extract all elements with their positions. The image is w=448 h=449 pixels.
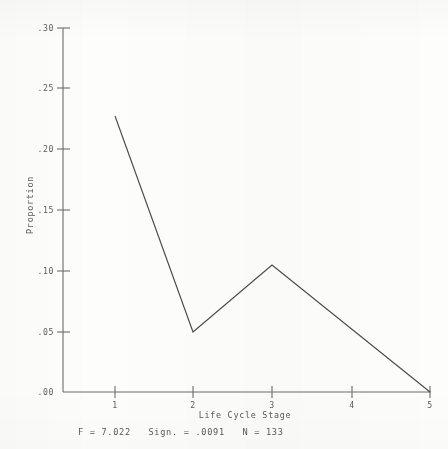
line-chart: .30 .25 .20 .15 .10 .05 .00 1 2 3 4 5 Li… bbox=[0, 0, 448, 449]
y-tick-label: .15 bbox=[37, 205, 54, 215]
statistics-caption: F = 7.022 Sign. = .0091 N = 133 bbox=[78, 427, 284, 437]
x-axis-title: Life Cycle Stage bbox=[199, 410, 292, 420]
y-tick-label: .30 bbox=[37, 23, 54, 33]
y-tick-label: .10 bbox=[37, 266, 54, 276]
x-tick-label: 3 bbox=[269, 400, 275, 410]
x-tick-label: 2 bbox=[190, 400, 196, 410]
x-tick-label: 1 bbox=[112, 400, 118, 410]
y-axis-title: Proportion bbox=[25, 176, 35, 234]
y-tick-label: .00 bbox=[37, 387, 54, 397]
chart-page: .30 .25 .20 .15 .10 .05 .00 1 2 3 4 5 Li… bbox=[0, 0, 448, 449]
y-tick-label: .20 bbox=[37, 144, 54, 154]
y-tick-label: .25 bbox=[37, 83, 54, 93]
data-series-line bbox=[115, 116, 430, 392]
x-tick-label: 4 bbox=[349, 400, 355, 410]
x-tick-label: 5 bbox=[427, 400, 433, 410]
y-tick-label: .05 bbox=[37, 327, 54, 337]
